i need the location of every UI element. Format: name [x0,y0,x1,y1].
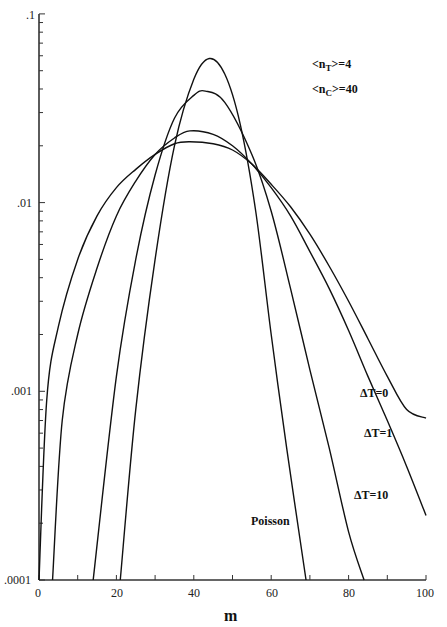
curve-t0 [39,142,426,580]
x-tick-label-0: 0 [35,586,41,600]
chart: .1 .01 .001 .0001 0 20 40 60 80 100 m <n… [0,0,447,627]
x-tick-label-20: 20 [111,586,123,600]
x-tick-label-100: 100 [416,586,434,600]
curve-t10 [93,91,364,580]
x-tick-label-80: 80 [343,586,355,600]
series-label-dt0: ΔT=0 [360,386,388,400]
y-tick-label-0.1: .1 [26,8,35,22]
y-tick-label-0.001: .001 [11,384,32,398]
x-axis-label: m [224,607,238,624]
series-label-dt10: ΔT=10 [354,488,388,502]
x-tick-label-40: 40 [188,586,200,600]
y-tick-label-0.0001: .0001 [4,573,31,587]
curve-poisson [120,58,306,580]
series-label-dt1: ΔT=1 [364,426,392,440]
series-label-poisson: Poisson [251,514,290,528]
y-tick-label-0.01: .01 [17,196,32,210]
annotation-nT: <nT>=4 [312,57,351,73]
annotation-nC: <nC>=40 [312,82,358,98]
x-tick-label-60: 60 [266,586,278,600]
